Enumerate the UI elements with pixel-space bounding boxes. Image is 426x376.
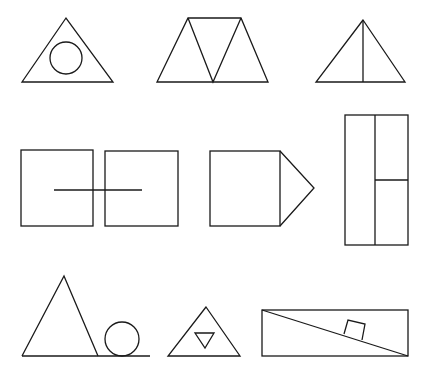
outer-triangle: [168, 307, 240, 356]
incline-line: [262, 310, 408, 356]
triangle-shape: [22, 276, 98, 356]
rectangle-incline-with-block: [262, 310, 408, 356]
triangle-shape: [22, 18, 113, 82]
triangle-with-vertical-bisector: [316, 20, 405, 82]
square-with-triangle-point: [210, 151, 314, 226]
inverted-triangle: [195, 333, 214, 348]
two-squares-joined-by-line: [21, 150, 178, 226]
square-left: [21, 150, 93, 226]
circle-shape: [50, 42, 82, 74]
inner-triangle-lines: [188, 18, 241, 82]
shapes-diagram: [0, 0, 426, 376]
tall-rectangle-split: [345, 115, 408, 245]
circle-shape: [105, 322, 139, 356]
triangle-with-inscribed-circle: [22, 18, 113, 82]
trapezoid-of-three-triangles: [157, 18, 268, 82]
square-right: [105, 151, 178, 226]
triangle-with-inverted-triangle: [168, 307, 240, 356]
triangle-point: [280, 151, 314, 226]
trapezoid-shape: [157, 18, 268, 82]
square-shape: [210, 151, 280, 226]
triangle-shape: [316, 20, 405, 82]
triangle-and-circle-on-line: [22, 276, 150, 356]
